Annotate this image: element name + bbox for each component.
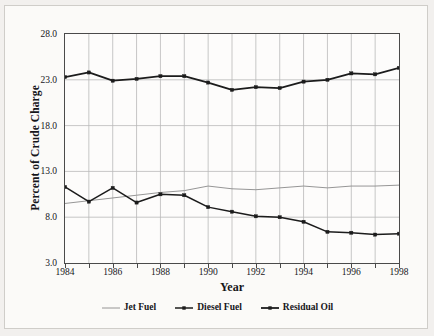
data-point-marker bbox=[326, 78, 329, 81]
x-tick-mark bbox=[327, 264, 328, 268]
x-tick-label: 1996 bbox=[331, 267, 371, 277]
legend-item-diesel-fuel[interactable]: Diesel Fuel bbox=[174, 303, 242, 313]
legend-label: Jet Fuel bbox=[124, 303, 156, 313]
x-tick-label: 1992 bbox=[236, 267, 276, 277]
y-tick-label: 18.0 bbox=[9, 121, 57, 131]
data-point-marker bbox=[111, 79, 114, 82]
data-point-marker bbox=[87, 71, 90, 74]
data-point-marker bbox=[302, 220, 305, 223]
legend-item-residual-oil[interactable]: Residual Oil bbox=[260, 303, 333, 313]
data-point-marker bbox=[350, 231, 353, 234]
data-point-marker bbox=[230, 88, 233, 91]
data-point-marker bbox=[350, 72, 353, 75]
data-point-marker bbox=[65, 185, 67, 188]
data-point-marker bbox=[65, 75, 67, 78]
data-point-marker bbox=[374, 233, 377, 236]
data-point-marker bbox=[135, 201, 138, 204]
x-tick-label: 1988 bbox=[140, 267, 180, 277]
data-point-marker bbox=[159, 75, 162, 78]
x-tick-label: 1986 bbox=[93, 267, 133, 277]
data-point-marker bbox=[87, 200, 90, 203]
data-point-marker bbox=[183, 194, 186, 197]
data-point-marker bbox=[278, 86, 281, 89]
x-tick-label: 1984 bbox=[45, 267, 85, 277]
data-point-marker bbox=[183, 75, 186, 78]
x-axis-title: Year bbox=[64, 280, 400, 295]
data-point-marker bbox=[374, 73, 377, 76]
data-point-marker bbox=[159, 193, 162, 196]
x-tick-mark bbox=[232, 264, 233, 268]
data-point-marker bbox=[326, 230, 329, 233]
paper-sheet: Percent of Crude Charge 3.08.013.018.023… bbox=[4, 5, 428, 329]
legend-label: Residual Oil bbox=[283, 303, 333, 313]
x-tick-mark bbox=[89, 264, 90, 268]
chart-figure: Percent of Crude Charge 3.08.013.018.023… bbox=[5, 6, 429, 330]
data-point-marker bbox=[302, 80, 305, 83]
x-tick-label: 1998 bbox=[379, 267, 419, 277]
x-tick-mark bbox=[184, 264, 185, 268]
data-point-marker bbox=[254, 86, 257, 89]
x-tick-mark bbox=[375, 264, 376, 268]
x-tick-label: 1990 bbox=[188, 267, 228, 277]
y-tick-label: 23.0 bbox=[9, 75, 57, 85]
legend-swatch-icon bbox=[101, 304, 121, 312]
scanned-page: Percent of Crude Charge 3.08.013.018.023… bbox=[0, 0, 434, 336]
y-tick-label: 28.0 bbox=[9, 29, 57, 39]
legend-swatch-icon bbox=[260, 304, 280, 312]
data-point-marker bbox=[111, 186, 114, 189]
data-point-marker bbox=[135, 77, 138, 80]
data-point-marker bbox=[254, 215, 257, 218]
data-point-marker bbox=[278, 216, 281, 219]
data-point-marker bbox=[397, 66, 399, 69]
legend-label: Diesel Fuel bbox=[197, 303, 242, 313]
data-point-marker bbox=[230, 210, 233, 213]
x-tick-label: 1994 bbox=[284, 267, 324, 277]
data-point-marker bbox=[207, 81, 210, 84]
plot-area bbox=[64, 33, 400, 264]
legend-swatch-icon bbox=[174, 304, 194, 312]
y-tick-label: 8.0 bbox=[9, 212, 57, 222]
data-point-marker bbox=[207, 206, 210, 209]
y-tick-label: 13.0 bbox=[9, 166, 57, 176]
data-point-marker bbox=[397, 232, 399, 235]
x-tick-mark bbox=[137, 264, 138, 268]
plot-svg bbox=[65, 34, 399, 263]
chart-legend: Jet FuelDiesel FuelResidual Oil bbox=[5, 303, 429, 313]
legend-item-jet-fuel[interactable]: Jet Fuel bbox=[101, 303, 156, 313]
y-axis-title: Percent of Crude Charge bbox=[29, 58, 41, 238]
x-tick-mark bbox=[280, 264, 281, 268]
